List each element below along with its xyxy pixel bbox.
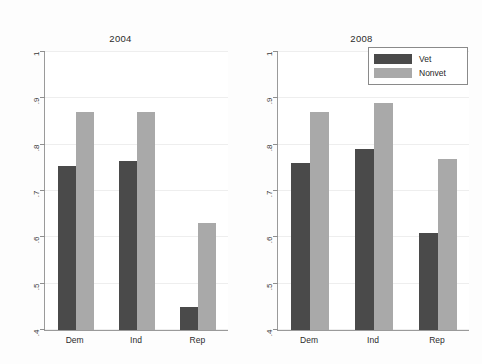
bar-nonvet-dem	[310, 112, 329, 330]
panel-title-2004: 2004	[0, 33, 241, 44]
y-axis-label: .9	[32, 98, 41, 118]
y-axis-tick	[273, 51, 278, 52]
bar-nonvet-ind	[137, 112, 155, 330]
gridline	[45, 51, 228, 52]
x-axis-label-ind: Ind	[341, 335, 405, 345]
legend-item-vet: Vet	[374, 52, 462, 66]
y-axis-label: .5	[32, 283, 41, 303]
y-axis-label: .6	[32, 237, 41, 257]
y-axis-tick	[40, 329, 45, 330]
x-axis-label-rep: Rep	[405, 335, 469, 345]
bar-vet-ind	[119, 161, 137, 330]
bar-nonvet-rep	[438, 159, 457, 330]
y-axis-tick	[40, 97, 45, 98]
bar-vet-dem	[58, 166, 76, 330]
y-axis-label: .8	[265, 144, 274, 164]
y-axis-label: 1	[32, 52, 41, 72]
y-axis-label: .7	[265, 191, 274, 211]
bar-vet-ind	[355, 149, 374, 330]
y-axis-tick	[40, 283, 45, 284]
y-axis-label: .8	[32, 144, 41, 164]
chart-figure: 2004 .4.5.6.7.8.91DemIndRep 2008 .4.5.6.…	[0, 0, 482, 364]
bar-nonvet-ind	[374, 103, 393, 330]
bar-nonvet-rep	[198, 223, 216, 330]
legend-item-nonvet: Nonvet	[374, 66, 462, 80]
y-axis-label: .7	[32, 191, 41, 211]
bar-vet-rep	[419, 233, 438, 330]
plot-area-2004	[44, 52, 228, 331]
bar-vet-dem	[291, 163, 310, 330]
gridline	[45, 97, 228, 98]
chart-panel-2004: 2004 .4.5.6.7.8.91DemIndRep	[0, 0, 241, 364]
y-axis-tick	[40, 190, 45, 191]
x-axis-label-dem: Dem	[277, 335, 341, 345]
x-axis-label-ind: Ind	[105, 335, 166, 345]
y-axis-tick	[40, 144, 45, 145]
y-axis-label: .6	[265, 237, 274, 257]
plot-area-2008	[277, 52, 469, 331]
y-axis-label: 1	[265, 52, 274, 72]
chart-legend: Vet Nonvet	[368, 47, 468, 85]
y-axis-tick	[273, 190, 278, 191]
y-axis-tick	[273, 329, 278, 330]
bar-nonvet-dem	[76, 112, 94, 330]
panel-title-2008: 2008	[241, 33, 482, 44]
legend-swatch-vet	[374, 54, 412, 64]
legend-label-nonvet: Nonvet	[419, 68, 446, 78]
y-axis-label: .9	[265, 98, 274, 118]
y-axis-tick	[40, 236, 45, 237]
y-axis-tick	[273, 97, 278, 98]
y-axis-label: .5	[265, 283, 274, 303]
y-axis-label: .4	[265, 330, 274, 350]
gridline	[278, 97, 469, 98]
y-axis-tick	[40, 51, 45, 52]
bar-vet-rep	[180, 307, 198, 330]
y-axis-label: .4	[32, 330, 41, 350]
x-axis-label-rep: Rep	[167, 335, 228, 345]
y-axis-tick	[273, 283, 278, 284]
y-axis-tick	[273, 236, 278, 237]
y-axis-tick	[273, 144, 278, 145]
legend-label-vet: Vet	[419, 54, 431, 64]
legend-swatch-nonvet	[374, 68, 412, 78]
x-axis-label-dem: Dem	[44, 335, 105, 345]
